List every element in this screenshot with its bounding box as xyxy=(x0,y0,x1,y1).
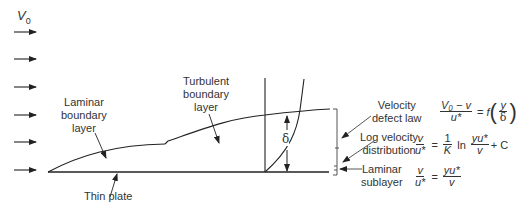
log-velocity-label: Log velocity distribution xyxy=(360,131,418,157)
velocity-defect-equation: V₀ − vu* = f ( yδ ) xyxy=(438,100,517,123)
thin-plate-label: Thin plate xyxy=(84,190,132,203)
log-velocity-equation: vu* = 1K ln yu*v + C xyxy=(412,133,508,156)
freestream-arrows xyxy=(14,32,36,170)
velocity-defect-label: Velocity defect law xyxy=(372,99,422,125)
boundary-thickness-delta: δ xyxy=(282,132,289,146)
laminar-boundary-edge xyxy=(48,144,165,172)
laminar-sublayer-equation: vu* = yu*v xyxy=(412,165,463,188)
turbulent-boundary-edge xyxy=(165,109,330,144)
region-bracket xyxy=(333,109,339,175)
turbulent-boundary-layer-label: Turbulent boundary layer xyxy=(183,75,229,114)
laminar-boundary-layer-label: Laminar boundary layer xyxy=(61,96,107,135)
laminar-sublayer-label: Laminar sublayer xyxy=(361,163,403,189)
velocity-profile xyxy=(265,79,304,172)
freestream-velocity-label: V0 xyxy=(17,8,31,26)
